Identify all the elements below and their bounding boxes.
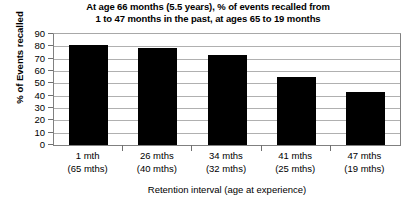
bar-chart-figure: At age 66 months (5.5 years), % of event… <box>0 0 416 205</box>
x-tick-label: 41 mths(25 mths) <box>261 150 330 175</box>
chart-title-line-1: At age 66 months (5.5 years), % of event… <box>0 1 416 13</box>
chart-title-line-2: 1 to 47 months in the past, at ages 65 t… <box>0 13 416 25</box>
x-tick-label-primary: 34 mths <box>191 150 260 163</box>
y-tick-label: 60 <box>34 65 45 76</box>
x-tick-label-secondary: (19 mths) <box>330 163 399 176</box>
x-tick-label: 34 mths(32 mths) <box>191 150 260 175</box>
x-tick-label-secondary: (40 mths) <box>122 163 191 176</box>
x-axis-tick-labels: 1 mth(65 mths)26 mths(40 mths)34 mths(32… <box>53 150 401 180</box>
bar <box>346 92 385 145</box>
x-tick-label-primary: 47 mths <box>330 150 399 163</box>
bar <box>277 77 316 145</box>
x-tick-label-primary: 1 mth <box>53 150 122 163</box>
y-tick-label: 0 <box>40 139 45 150</box>
bar <box>69 45 108 145</box>
chart-title: At age 66 months (5.5 years), % of event… <box>0 1 416 24</box>
bar <box>138 48 177 145</box>
x-tick-label-primary: 41 mths <box>261 150 330 163</box>
x-tick-label-primary: 26 mths <box>122 150 191 163</box>
y-tick-label: 20 <box>34 114 45 125</box>
x-tick-label: 26 mths(40 mths) <box>122 150 191 175</box>
x-tick-label-secondary: (25 mths) <box>261 163 330 176</box>
y-tick-label: 80 <box>34 40 45 51</box>
y-tick-label: 30 <box>34 102 45 113</box>
y-tick-label: 90 <box>34 28 45 39</box>
bar <box>208 55 247 145</box>
plot-area <box>53 33 401 146</box>
x-tick-label: 1 mth(65 mths) <box>53 150 122 175</box>
y-axis-ticks: 0102030405060708090 <box>0 33 53 144</box>
x-tick-label-secondary: (32 mths) <box>191 163 260 176</box>
y-tick-label: 40 <box>34 89 45 100</box>
y-tick-label: 50 <box>34 77 45 88</box>
bar-series <box>54 34 400 145</box>
x-tick-label: 47 mths(19 mths) <box>330 150 399 175</box>
y-tick-label: 70 <box>34 52 45 63</box>
x-axis-title: Retention interval (age at experience) <box>53 184 401 195</box>
x-tick-label-secondary: (65 mths) <box>53 163 122 176</box>
y-tick-label: 10 <box>34 126 45 137</box>
